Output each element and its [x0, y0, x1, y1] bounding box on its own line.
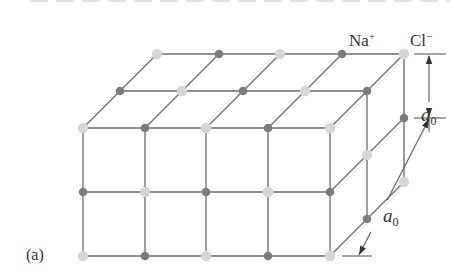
vertical-dimension-label: a0	[421, 104, 437, 126]
cl-ion-atom	[399, 49, 409, 59]
lattice-bonds	[83, 54, 404, 256]
na-ion-atom	[264, 124, 273, 133]
cl-ion-label: Cl−	[410, 31, 432, 51]
na-ion-atom	[141, 124, 150, 133]
na-ion-atom	[116, 87, 125, 96]
cl-ion-atom	[152, 49, 162, 59]
cl-ion-atom	[201, 123, 211, 133]
cl-ion-atom	[140, 187, 150, 197]
na-ion-atom	[202, 188, 211, 197]
cl-ion-atom	[275, 49, 285, 59]
na-ion-atom	[400, 114, 409, 123]
na-ion-atom	[264, 252, 273, 261]
cl-ion-atom	[399, 177, 409, 187]
na-ion-atom	[141, 252, 150, 261]
cl-ion-atom	[325, 251, 335, 261]
na-ion-atom	[363, 87, 372, 96]
lattice-atoms	[78, 49, 409, 261]
panel-label: (a)	[26, 246, 44, 264]
cl-ion-atom	[78, 123, 88, 133]
dimension-line	[387, 119, 429, 200]
na-ion-atom	[79, 188, 88, 197]
na-ion-label: Na+	[349, 31, 375, 51]
na-ion-atom	[326, 188, 335, 197]
cl-ion-atom	[201, 251, 211, 261]
cl-ion-atom	[325, 123, 335, 133]
arrowhead-icon	[359, 246, 366, 255]
na-ion-atom	[239, 87, 248, 96]
cl-ion-atom	[263, 187, 273, 197]
na-ion-atom	[338, 50, 347, 59]
nacl-crystal-lattice-diagram	[0, 0, 467, 277]
cl-ion-atom	[300, 86, 310, 96]
cl-ion-atom	[177, 86, 187, 96]
cl-ion-atom	[362, 150, 372, 160]
arrowhead-icon	[426, 55, 432, 64]
cl-ion-atom	[78, 251, 88, 261]
na-ion-atom	[215, 50, 224, 59]
na-ion-atom	[363, 215, 372, 224]
depth-dimension-label: a0	[383, 205, 399, 227]
